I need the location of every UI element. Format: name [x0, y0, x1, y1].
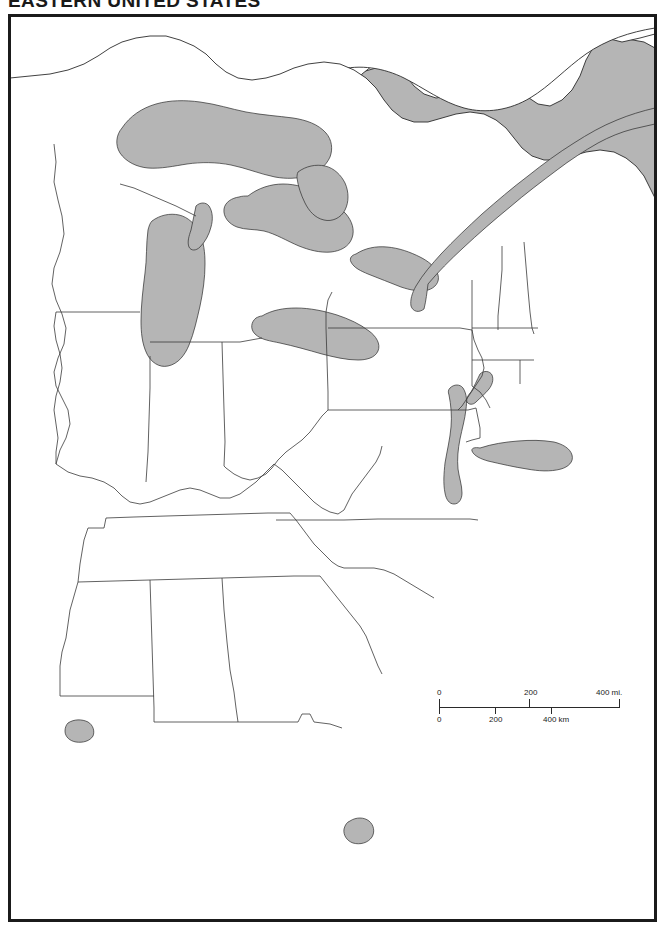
- lake-okeechobee: [344, 818, 374, 844]
- lake-pontchartrain: [65, 720, 94, 742]
- scale-tick-km-400: [551, 707, 552, 714]
- scale-miles-400: 400 mi.: [596, 688, 622, 697]
- scale-miles-200: 200: [524, 688, 537, 697]
- page-title: EASTERN UNITED STATES: [8, 0, 261, 11]
- map-canvas: .land { fill:#ffffff; stroke:#2b2b2b; st…: [10, 16, 655, 920]
- scale-tick-km-0: [439, 707, 440, 714]
- scale-km-0: 0: [437, 715, 441, 724]
- scale-km-400: 400 km: [543, 715, 569, 724]
- scale-miles-0: 0: [437, 688, 441, 697]
- map-geography: [10, 36, 655, 920]
- map-frame: .land { fill:#ffffff; stroke:#2b2b2b; st…: [8, 14, 657, 922]
- scale-rule: [439, 707, 620, 708]
- scale-bar: 0 200 400 mi. 0 200 400 km: [439, 688, 629, 732]
- scale-km-200: 200: [489, 715, 502, 724]
- scale-tick-km-200: [495, 707, 496, 714]
